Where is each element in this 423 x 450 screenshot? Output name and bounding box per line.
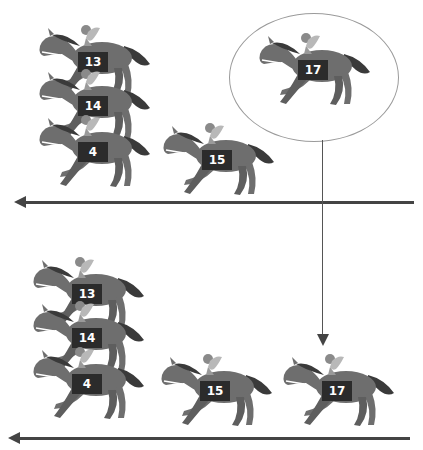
horse-15-bottom: 15 [154, 353, 279, 431]
bib-15-bottom: 15 [200, 381, 230, 401]
bib-15-top: 15 [202, 150, 232, 170]
track-line-top [22, 201, 414, 204]
down-arrow-icon [317, 334, 329, 346]
horse-4-top: 4 [32, 114, 157, 192]
bib-17-bottom: 17 [322, 381, 352, 401]
connector-line [322, 140, 323, 336]
direction-arrow-left-icon [8, 432, 20, 444]
horse-17-top: 17 [252, 32, 377, 110]
bib-17-top: 17 [298, 60, 328, 80]
horse-17-bottom: 17 [276, 353, 401, 431]
direction-arrow-left-icon [14, 196, 26, 208]
bib-4-top: 4 [78, 142, 108, 162]
bib-14-bottom: 14 [72, 328, 102, 348]
horse-4-bottom: 4 [26, 346, 151, 424]
bib-4-bottom: 4 [72, 374, 102, 394]
track-line-bottom [16, 437, 410, 440]
horse-15-top: 15 [156, 122, 281, 200]
bib-14-top: 14 [78, 96, 108, 116]
